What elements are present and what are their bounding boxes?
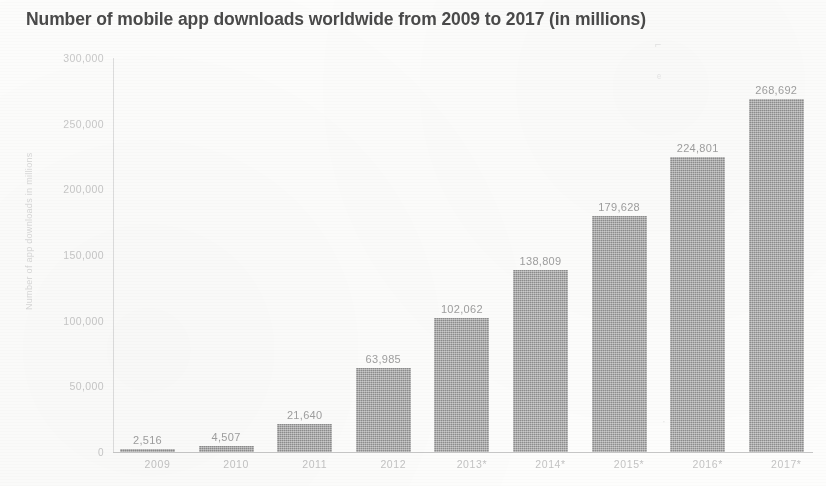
bar-group[interactable]: 268,692 bbox=[749, 99, 804, 452]
x-category-label: 2015* bbox=[592, 458, 667, 470]
bar-rect[interactable] bbox=[277, 424, 332, 452]
bar-group[interactable]: 179,628 bbox=[592, 216, 647, 452]
bar-group[interactable]: 102,062 bbox=[434, 318, 489, 452]
bar-group[interactable]: 4,507 bbox=[199, 446, 254, 452]
bar-group[interactable]: 21,640 bbox=[277, 424, 332, 452]
bar-rect[interactable] bbox=[120, 449, 175, 452]
bars-layer: 2,51620094,507201021,640201163,985201210… bbox=[0, 0, 826, 486]
bar-rect[interactable] bbox=[513, 270, 568, 452]
bar-group[interactable]: 138,809 bbox=[513, 270, 568, 452]
bar-group[interactable]: 224,801 bbox=[670, 157, 725, 452]
x-category-label: 2010 bbox=[199, 458, 274, 470]
x-category-label: 2014* bbox=[513, 458, 588, 470]
bar-group[interactable]: 63,985 bbox=[356, 368, 411, 452]
x-category-label: 2012 bbox=[356, 458, 431, 470]
bar-value-label: 268,692 bbox=[739, 84, 814, 96]
bar-value-label: 2,516 bbox=[110, 434, 185, 446]
bar-rect[interactable] bbox=[356, 368, 411, 452]
bar-value-label: 138,809 bbox=[503, 255, 578, 267]
bar-value-label: 179,628 bbox=[582, 201, 657, 213]
x-category-label: 2011 bbox=[277, 458, 352, 470]
bar-value-label: 21,640 bbox=[267, 409, 342, 421]
bar-rect[interactable] bbox=[670, 157, 725, 452]
bar-rect[interactable] bbox=[749, 99, 804, 452]
bar-rect[interactable] bbox=[592, 216, 647, 452]
chart-plot-area: Number of mobile app downloads worldwide… bbox=[0, 0, 826, 486]
bar-rect[interactable] bbox=[199, 446, 254, 452]
bar-value-label: 102,062 bbox=[424, 303, 499, 315]
x-category-label: 2013* bbox=[434, 458, 509, 470]
x-category-label: 2009 bbox=[120, 458, 195, 470]
bar-value-label: 224,801 bbox=[660, 142, 735, 154]
bar-group[interactable]: 2,516 bbox=[120, 449, 175, 452]
x-category-label: 2016* bbox=[670, 458, 745, 470]
bar-rect[interactable] bbox=[434, 318, 489, 452]
bar-value-label: 4,507 bbox=[189, 431, 264, 443]
bar-value-label: 63,985 bbox=[346, 353, 421, 365]
x-category-label: 2017* bbox=[749, 458, 824, 470]
